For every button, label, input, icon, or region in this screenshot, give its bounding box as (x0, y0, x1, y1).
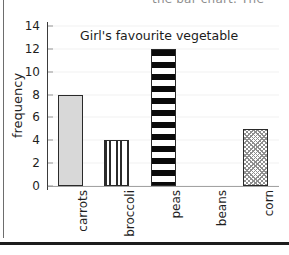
x-label-carrots: carrots (76, 190, 90, 232)
x-label-beans: beans (215, 190, 229, 226)
x-label-broccoli: broccoli (123, 190, 137, 237)
bar-broccoli (104, 140, 129, 186)
y-tick-label: 0 (0, 179, 47, 193)
bar-carrots (58, 95, 83, 186)
bar-chart: frequency 02468101214 Girl's favourite v… (0, 14, 289, 238)
y-tick-label: 2 (0, 156, 47, 170)
cut-off-header-text: the bar chart. The (152, 0, 289, 9)
chart-page: the bar chart. The frequency 02468101214… (0, 0, 289, 255)
header-text: the bar chart. The (152, 0, 264, 6)
y-tick-label: 10 (0, 65, 47, 79)
bar-corn (243, 129, 268, 186)
x-label-corn: corn (262, 190, 276, 216)
page-bottom-divider (0, 242, 289, 245)
y-tick-label: 12 (0, 42, 47, 56)
chart-title: Girl's favourite vegetable (80, 28, 270, 43)
y-tick-label: 14 (0, 19, 47, 33)
x-label-peas: peas (169, 190, 183, 219)
y-tick-label: 6 (0, 110, 47, 124)
y-tick-label: 4 (0, 133, 47, 147)
bar-peas (151, 49, 176, 186)
plot-area (47, 26, 279, 186)
y-tick-label: 8 (0, 88, 47, 102)
